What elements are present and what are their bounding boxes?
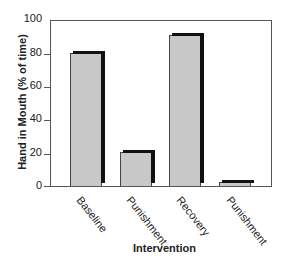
y-tick-label-80: 80	[16, 47, 42, 58]
y-tick-label-40: 40	[16, 113, 42, 124]
y-axis-title: Hand in Mouth (% of time)	[16, 22, 28, 182]
bar-punishment-1	[120, 152, 152, 186]
x-tick-label-baseline: Baseline	[75, 194, 110, 235]
x-axis-title: Intervention	[0, 242, 289, 254]
bar-punishment-2	[219, 182, 251, 186]
y-tick-label-0: 0	[16, 180, 42, 191]
bar-recovery	[169, 35, 201, 186]
x-tick-label-punishment-2: Punishment	[225, 194, 270, 247]
y-tick-label-100: 100	[16, 13, 42, 24]
x-tick-label-recovery: Recovery	[175, 194, 213, 238]
y-tick-label-60: 60	[16, 80, 42, 91]
bar-baseline	[70, 53, 102, 186]
x-tick-label-punishment-1: Punishment	[125, 194, 170, 247]
y-tick-label-20: 20	[16, 147, 42, 158]
plot-area	[50, 20, 272, 187]
